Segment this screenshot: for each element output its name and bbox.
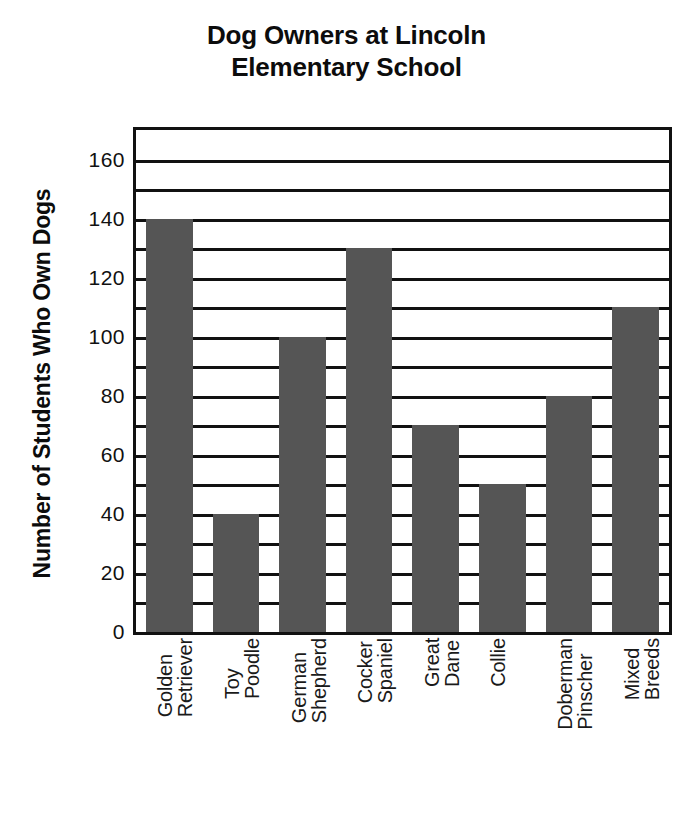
y-axis-title: Number of Students Who Own Dogs <box>29 124 56 644</box>
y-axis-tick-label: 100 <box>55 325 125 349</box>
gridline <box>136 248 669 251</box>
x-axis-label-slot: Mixed Breeds <box>602 638 669 817</box>
gridline <box>136 160 669 163</box>
y-axis-tick-label: 20 <box>55 561 125 585</box>
x-axis-tick-label: German Shepherd <box>289 638 330 723</box>
x-axis-tick-label: Mixed Breeds <box>622 638 663 700</box>
bar <box>146 219 193 632</box>
x-axis-tick-label: Cocker Spaniel <box>355 638 396 703</box>
bar <box>479 484 526 632</box>
bar <box>412 425 459 632</box>
x-axis-tick-label: Great Dane <box>422 638 463 687</box>
x-axis-category-labels: Golden RetrieverToy PoodleGerman Shepher… <box>133 638 672 817</box>
x-axis-label-slot: Great Dane <box>403 638 470 817</box>
bar <box>612 307 659 632</box>
bar <box>213 514 260 632</box>
chart-title: Dog Owners at Lincoln Elementary School <box>0 20 693 83</box>
y-axis-tick-label: 0 <box>55 620 125 644</box>
y-axis-tick-label: 40 <box>55 502 125 526</box>
bar <box>546 396 593 632</box>
bar <box>346 248 393 632</box>
gridline <box>136 307 669 310</box>
x-axis-label-slot: Doberman Pinscher <box>536 638 603 817</box>
plot-area <box>133 127 672 635</box>
x-axis-label-slot: Golden Retriever <box>136 638 203 817</box>
y-axis-tick-label: 60 <box>55 443 125 467</box>
x-axis-tick-label: Toy Poodle <box>222 638 263 699</box>
gridline <box>136 219 669 222</box>
plot-inner <box>136 130 669 632</box>
x-axis-tick-label: Doberman Pinscher <box>555 638 596 730</box>
x-axis-tick-label: Golden Retriever <box>155 638 196 717</box>
x-axis-tick-label: Collie <box>488 638 508 687</box>
gridline <box>136 366 669 369</box>
y-axis-tick-label: 140 <box>55 207 125 231</box>
gridline <box>136 278 669 281</box>
bar <box>279 337 326 632</box>
x-axis-label-slot: Cocker Spaniel <box>336 638 403 817</box>
x-axis-label-slot: German Shepherd <box>269 638 336 817</box>
y-axis-tick-label: 160 <box>55 148 125 172</box>
gridline <box>136 189 669 192</box>
y-axis-tick-label: 80 <box>55 384 125 408</box>
x-axis-label-slot: Collie <box>469 638 536 817</box>
x-axis-label-slot: Toy Poodle <box>203 638 270 817</box>
y-axis-tick-labels: 020406080100120140160 <box>55 127 125 635</box>
gridline <box>136 337 669 340</box>
y-axis-tick-label: 120 <box>55 266 125 290</box>
